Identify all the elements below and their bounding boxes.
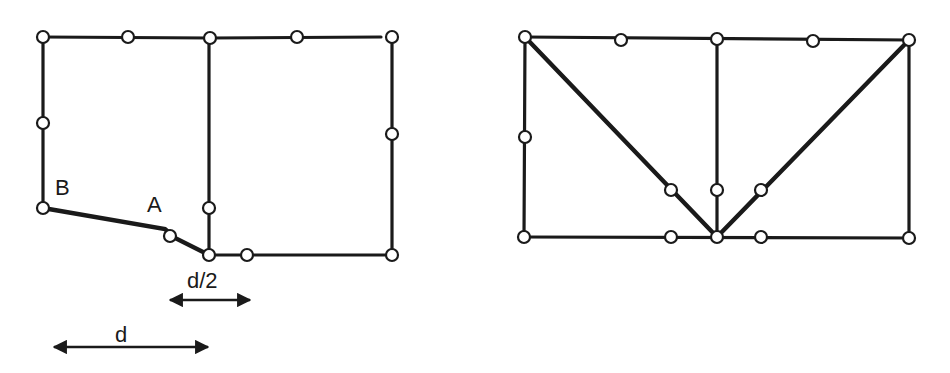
node	[615, 34, 627, 46]
node	[519, 31, 531, 43]
node	[386, 249, 398, 261]
node-a	[164, 230, 176, 242]
node	[755, 231, 767, 243]
node	[37, 31, 49, 43]
node	[665, 231, 677, 243]
diagram-canvas: B A d/2 d	[0, 0, 950, 373]
right-frame	[518, 31, 915, 244]
node	[203, 249, 215, 261]
label-b: B	[55, 175, 70, 200]
node	[519, 131, 531, 143]
dimension-half-span-label: d/2	[187, 268, 218, 293]
node	[903, 232, 915, 244]
diagonal-right	[717, 40, 909, 237]
node	[386, 128, 398, 140]
deformed-member-ab	[43, 208, 209, 255]
node	[203, 202, 215, 214]
node-b	[37, 202, 49, 214]
node	[37, 117, 49, 129]
node	[755, 184, 767, 196]
node	[665, 184, 677, 196]
node	[518, 231, 530, 243]
dimension-span-label: d	[115, 322, 127, 347]
node	[711, 33, 723, 45]
node	[903, 34, 915, 46]
node	[291, 31, 303, 43]
diagonal-left	[525, 37, 717, 237]
left-frame: B A d/2 d	[37, 31, 398, 347]
node	[122, 31, 134, 43]
node	[204, 32, 216, 44]
node	[807, 35, 819, 47]
node	[241, 249, 253, 261]
node	[711, 184, 723, 196]
label-a: A	[147, 192, 162, 217]
node	[711, 231, 723, 243]
node	[386, 31, 398, 43]
